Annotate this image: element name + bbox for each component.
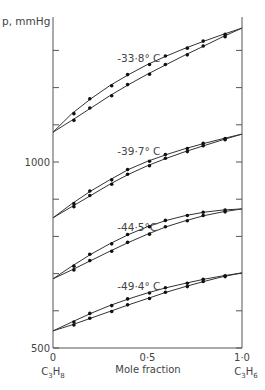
data-point [88,189,92,193]
data-point [88,194,92,198]
data-point [148,297,152,301]
data-point [72,268,76,272]
data-point [164,225,168,229]
data-point [186,46,190,50]
x-tick-label: 0·5 [140,352,156,363]
data-point [186,150,190,154]
data-point [164,156,168,160]
data-point [126,241,130,245]
data-point [186,285,190,289]
data-point [110,94,114,98]
y-tick-label: 500 [31,343,50,354]
data-point [126,303,130,307]
isotherm-label: -49·4° C [117,280,160,292]
curves: -33·8° C-39·7° C-44·5°C-49·4° C [53,28,242,331]
data-point [186,219,190,223]
x-tick-label: 1·0 [234,352,250,363]
data-point [126,73,130,77]
data-point [223,210,227,214]
data-point [164,290,168,294]
data-point [110,84,114,88]
data-point [148,291,152,295]
data-point [148,63,152,67]
data-point [110,304,114,308]
data-point [223,138,227,142]
data-point [201,44,205,48]
data-point [72,119,76,123]
x-left-species-label: C3H8 [41,366,64,380]
data-point [72,323,76,327]
data-point [223,275,227,279]
data-point [88,252,92,256]
data-point [164,153,168,157]
data-point [88,312,92,316]
data-point [201,210,205,214]
liquid-curve [53,28,242,132]
data-point [72,205,76,209]
data-point [201,144,205,148]
x-right-species-label: C3H6 [234,366,258,380]
data-point [126,83,130,87]
data-point [126,233,130,237]
data-point [148,232,152,236]
data-point [201,214,205,218]
data-point [186,53,190,57]
data-point [164,219,168,223]
data-point [88,97,92,101]
data-point [201,39,205,43]
isotherm-label: -39·7° C [117,145,160,157]
data-point [110,178,114,182]
x-tick-label: 0 [50,352,56,363]
data-point [88,259,92,263]
vapor-curve [53,209,242,279]
data-point [126,168,130,172]
y-axis-label: p, mmHg [2,15,50,27]
data-point [110,310,114,314]
data-point [164,63,168,67]
data-point [126,297,130,301]
data-point [148,164,152,168]
y-tick-label: 1000 [25,157,50,168]
data-point [186,214,190,218]
data-point [110,249,114,253]
axes: 500100000·51·0C3H8C3H6 [25,17,259,380]
data-point [88,316,92,320]
data-point [223,35,227,39]
data-point [110,242,114,246]
data-point [72,112,76,116]
vapor-curve [53,28,242,132]
isotherm-label: -33·8° C [117,52,160,64]
data-point [148,72,152,76]
data-point [186,281,190,285]
x-axis-label: Mole fraction [115,364,180,375]
vapor-pressure-chart: 500100000·51·0C3H8C3H6 -33·8° C-39·7° C-… [0,0,265,390]
data-point [88,106,92,110]
data-point [201,280,205,284]
data-point [126,172,130,176]
data-point [164,286,168,290]
data-point [148,225,152,229]
data-point [110,183,114,187]
data-point [148,159,152,163]
data-point [72,264,76,268]
liquid-curve [53,209,242,279]
data-point [164,54,168,58]
